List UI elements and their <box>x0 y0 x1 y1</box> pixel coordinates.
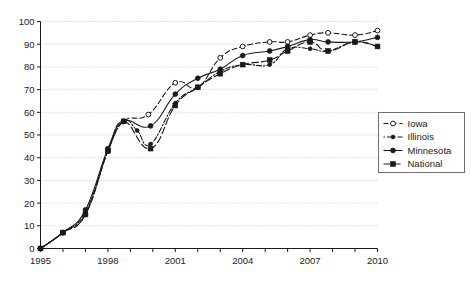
data-point-marker <box>353 33 358 38</box>
chart-canvas: 0102030405060708090100 19951998200120042… <box>0 0 471 285</box>
data-point-marker <box>326 49 331 54</box>
x-tick-label: 2001 <box>165 255 186 266</box>
data-point-marker <box>308 40 313 45</box>
data-point-marker <box>121 119 126 124</box>
data-point-marker <box>148 124 153 129</box>
series-illinois <box>39 40 380 250</box>
y-tick-label: 60 <box>24 107 35 118</box>
y-tick-label: 50 <box>24 129 35 140</box>
data-point-marker <box>61 230 66 235</box>
line-chart: 0102030405060708090100 19951998200120042… <box>0 0 471 285</box>
data-point-marker <box>375 44 380 49</box>
series-line <box>41 37 378 248</box>
series-national <box>38 40 380 251</box>
data-point-marker <box>326 30 331 35</box>
x-tick-label: 2007 <box>300 255 321 266</box>
data-point-marker <box>218 71 223 76</box>
series-line <box>41 31 378 249</box>
data-point-marker <box>195 76 200 81</box>
legend-marker-open-circle <box>391 121 396 126</box>
data-point-marker <box>195 85 200 90</box>
x-tick-label: 1998 <box>97 255 118 266</box>
data-point-marker <box>240 44 245 49</box>
series-minnesota <box>38 35 380 251</box>
legend-label: Illinois <box>408 131 435 142</box>
y-tick-label: 90 <box>24 39 35 50</box>
data-point-marker <box>308 47 312 51</box>
data-point-marker <box>173 92 178 97</box>
data-series-group <box>38 28 380 251</box>
data-point-marker <box>106 148 111 153</box>
data-point-marker <box>218 55 223 60</box>
legend-marker-filled-square <box>391 162 396 167</box>
data-point-marker <box>285 44 290 49</box>
data-point-marker <box>146 112 151 117</box>
y-axis: 0102030405060708090100 <box>19 16 41 254</box>
data-point-marker <box>173 80 178 85</box>
x-tick-label: 2010 <box>367 255 388 266</box>
data-point-marker <box>353 40 358 45</box>
legend-label: Minnesota <box>408 145 453 156</box>
y-tick-label: 0 <box>29 243 34 254</box>
data-point-marker <box>268 63 272 67</box>
data-point-marker <box>267 58 272 63</box>
chart-legend: IowaIllinoisMinnesotaNational <box>379 113 465 173</box>
y-tick-label: 40 <box>24 152 35 163</box>
data-point-marker <box>173 103 178 108</box>
data-point-marker <box>240 53 245 58</box>
data-point-marker <box>375 28 380 33</box>
x-axis: 199519982001200420072010 <box>30 249 388 266</box>
data-point-marker <box>308 33 313 38</box>
data-point-marker <box>375 35 380 40</box>
data-point-marker <box>83 212 88 217</box>
x-tick-label: 2004 <box>232 255 253 266</box>
y-tick-label: 70 <box>24 84 35 95</box>
data-point-marker <box>240 62 245 67</box>
legend-marker-small-filled-circle <box>391 135 395 139</box>
data-point-marker <box>267 40 272 45</box>
data-point-marker <box>135 129 139 133</box>
data-point-marker <box>267 49 272 54</box>
data-point-marker <box>149 142 153 146</box>
y-tick-label: 100 <box>19 16 35 27</box>
series-line <box>41 42 378 249</box>
x-tick-label: 1995 <box>30 255 51 266</box>
series-iowa <box>38 28 380 251</box>
data-point-marker <box>285 49 290 54</box>
series-line <box>41 42 378 249</box>
legend-label: Iowa <box>408 118 429 129</box>
y-tick-label: 10 <box>24 220 35 231</box>
legend-label: National <box>408 158 443 169</box>
data-point-marker <box>38 246 43 251</box>
data-point-marker <box>148 146 153 151</box>
data-point-marker <box>285 40 290 45</box>
data-point-marker <box>326 40 331 45</box>
legend-marker-filled-circle <box>391 148 396 153</box>
data-point-marker <box>218 67 223 72</box>
y-tick-label: 80 <box>24 61 35 72</box>
y-tick-label: 30 <box>24 175 35 186</box>
y-tick-label: 20 <box>24 198 35 209</box>
